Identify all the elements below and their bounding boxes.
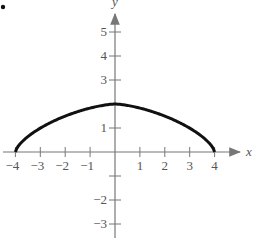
chart: −4−3−2−11234−3−21345 x y <box>0 0 262 243</box>
svg-text:2: 2 <box>162 158 169 173</box>
svg-text:−2: −2 <box>93 192 107 207</box>
svg-text:4: 4 <box>101 48 108 63</box>
svg-text:3: 3 <box>186 158 193 173</box>
svg-text:−4: −4 <box>5 158 19 173</box>
svg-text:4: 4 <box>211 158 218 173</box>
corner-dot <box>1 5 5 9</box>
svg-text:5: 5 <box>101 24 108 39</box>
svg-text:3: 3 <box>101 72 108 87</box>
svg-text:−3: −3 <box>30 158 44 173</box>
x-axis-label: x <box>245 144 252 159</box>
y-axis-label: y <box>110 0 118 9</box>
svg-text:−1: −1 <box>80 158 94 173</box>
svg-text:−3: −3 <box>93 216 107 231</box>
svg-text:−2: −2 <box>55 158 69 173</box>
svg-text:1: 1 <box>101 120 108 135</box>
svg-text:1: 1 <box>137 158 144 173</box>
